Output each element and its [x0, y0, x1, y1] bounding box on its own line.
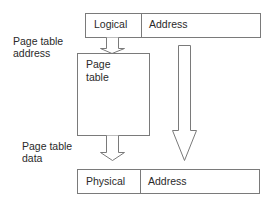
arrow-page-table-data-icon — [101, 136, 125, 161]
arrow-offset-passthrough-icon — [173, 46, 197, 161]
page-table-address-label-line1: Page table — [13, 35, 63, 47]
page-table-data-label-line1: Page table — [22, 140, 72, 152]
logical-cell-label: Logical — [94, 18, 127, 30]
page-table-label-line1: Page — [86, 58, 111, 70]
physical-cell-label: Physical — [86, 175, 125, 187]
physical-address-cell-label: Address — [148, 175, 187, 187]
logical-address-cell-label: Address — [149, 18, 188, 30]
diagram-shapes — [0, 0, 273, 202]
page-translation-diagram: Logical Address Page table Page table ad… — [0, 0, 273, 202]
page-table-data-label-line2: data — [22, 152, 42, 164]
arrow-to-page-table-icon — [101, 38, 125, 54]
page-table-label-line2: table — [86, 71, 109, 83]
page-table-address-label-line2: address — [13, 47, 50, 59]
